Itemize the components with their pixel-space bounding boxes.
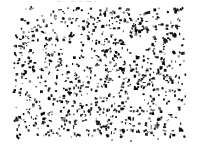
noise-pattern-canvas — [0, 0, 198, 148]
noise-image — [0, 0, 198, 148]
